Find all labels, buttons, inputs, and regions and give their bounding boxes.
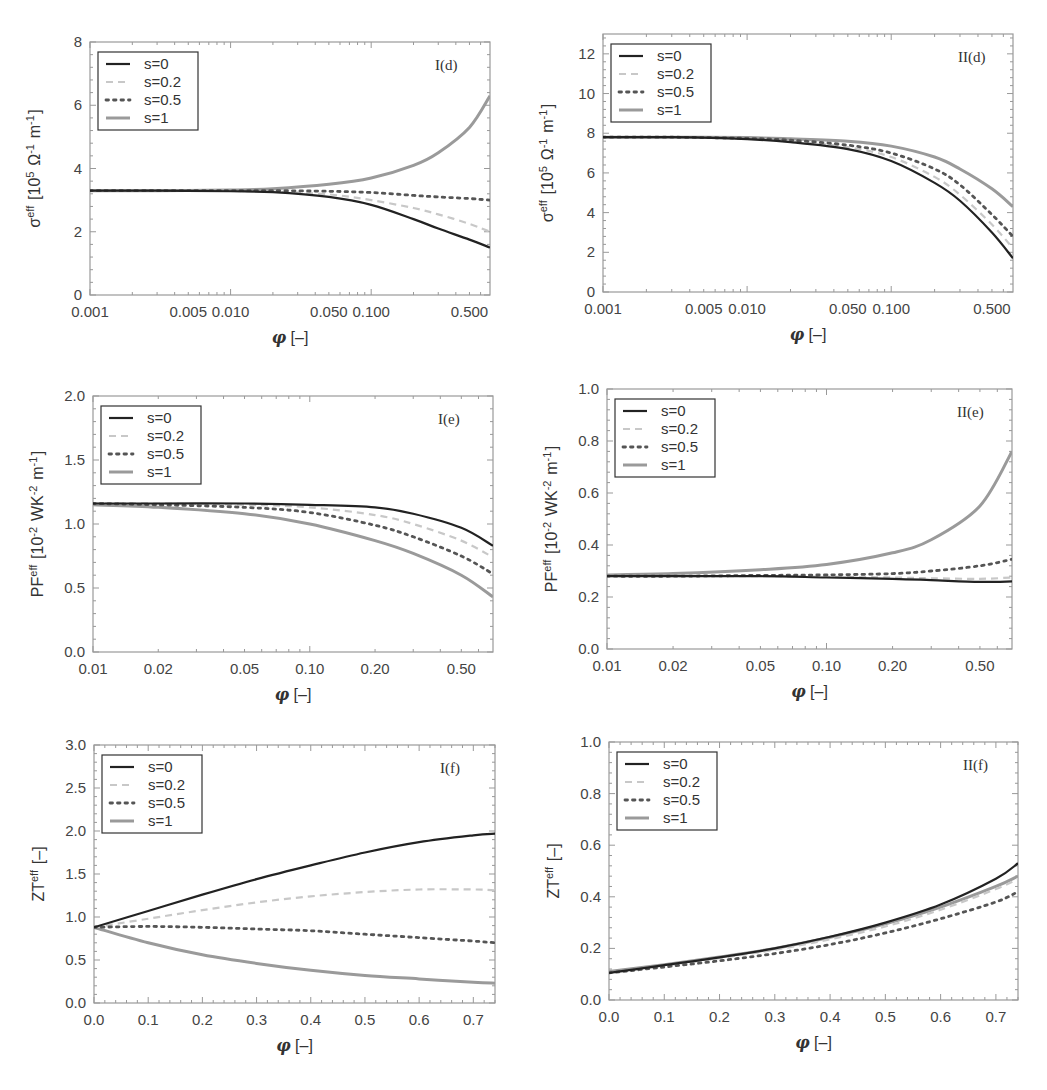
x-tick-label: 0.0 [599, 1008, 620, 1025]
legend-label: s=0.2 [663, 773, 700, 790]
x-tick-label: 0.7 [985, 1008, 1006, 1025]
panel-tag: II(f) [963, 757, 988, 774]
legend-label: s=0 [663, 755, 688, 772]
x-tick-label: 0.6 [930, 1008, 951, 1025]
x-tick-label: 0.2 [709, 1008, 730, 1025]
x-tick-label: 0.1 [654, 1008, 675, 1025]
y-tick-label: 0.6 [580, 836, 601, 853]
y-tick-label: 0.8 [580, 785, 601, 802]
y-tick-label: 1.0 [580, 733, 601, 750]
x-axis-label: φ [–] [795, 1033, 832, 1052]
legend-label: s=1 [663, 809, 688, 826]
x-tick-label: 0.5 [875, 1008, 896, 1025]
legend-label: s=0.5 [663, 791, 700, 808]
chart-svg: 0.00.10.20.30.40.50.60.70.00.20.40.60.81… [0, 0, 1047, 1090]
y-axis-label: ZTeff [–] [543, 843, 562, 898]
x-tick-label: 0.3 [764, 1008, 785, 1025]
y-tick-label: 0.0 [580, 991, 601, 1008]
y-tick-label: 0.4 [580, 888, 601, 905]
legend: s=0s=0.2s=0.5s=1 [617, 752, 717, 830]
y-tick-label: 0.2 [580, 939, 601, 956]
x-tick-label: 0.4 [820, 1008, 841, 1025]
